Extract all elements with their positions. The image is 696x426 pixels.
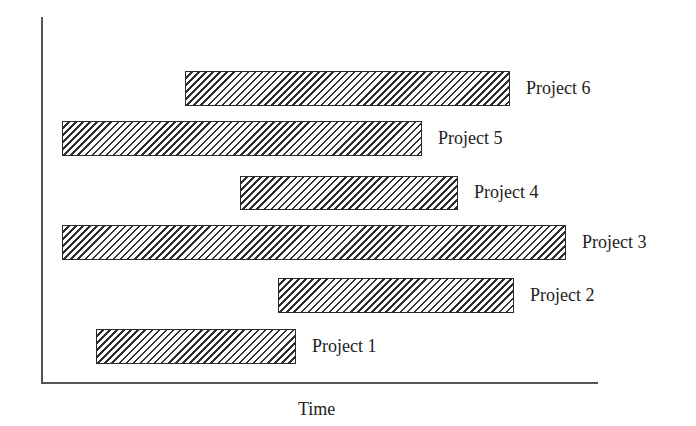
y-axis xyxy=(41,17,43,384)
bar-label: Project 3 xyxy=(582,233,647,251)
gantt-bar-project-2 xyxy=(278,278,514,313)
x-axis-title: Time xyxy=(298,400,335,418)
gantt-bar-project-1 xyxy=(96,329,296,364)
bar-label: Project 2 xyxy=(530,286,595,304)
gantt-bar-project-3 xyxy=(62,225,566,260)
gantt-bar-project-4 xyxy=(240,176,458,210)
bar-label: Project 1 xyxy=(312,337,377,355)
bar-label: Project 5 xyxy=(438,129,503,147)
bar-label: Project 6 xyxy=(526,79,591,97)
gantt-bar-project-5 xyxy=(62,121,422,156)
gantt-bar-project-6 xyxy=(185,71,510,106)
x-axis xyxy=(41,382,598,384)
gantt-chart: Project 1Project 2Project 3Project 4Proj… xyxy=(0,0,696,426)
bar-label: Project 4 xyxy=(474,183,539,201)
